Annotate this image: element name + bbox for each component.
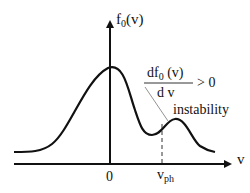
derivative-numerator: df0 (v) <box>147 66 184 80</box>
phase-velocity-label: vph <box>157 168 174 182</box>
x-axis-label: v <box>237 152 245 167</box>
origin-label: 0 <box>106 170 113 184</box>
instability-label: instability <box>173 103 229 117</box>
y-axis-label: f0(v) <box>116 12 144 27</box>
derivative-denominator: d v <box>157 86 175 100</box>
derivative-relation: > 0 <box>197 76 215 90</box>
